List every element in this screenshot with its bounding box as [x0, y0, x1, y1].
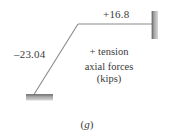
legend-sign-convention: + tension: [72, 46, 146, 58]
legend-quantity: axial forces: [72, 61, 146, 73]
label-horizontal-member-force: +16.8: [103, 8, 129, 20]
label-inclined-member-force: –23.04: [14, 48, 45, 60]
left-support-block: [26, 95, 53, 101]
axial-force-diagram-figure: +16.8 –23.04 + tension axial forces (kip…: [0, 0, 174, 140]
legend-block: + tension axial forces (kips): [72, 46, 146, 84]
legend-units: (kips): [72, 73, 146, 85]
figure-caption: (g): [0, 118, 174, 130]
caption-close-paren: ): [90, 118, 94, 130]
right-support-block: [152, 11, 158, 39]
